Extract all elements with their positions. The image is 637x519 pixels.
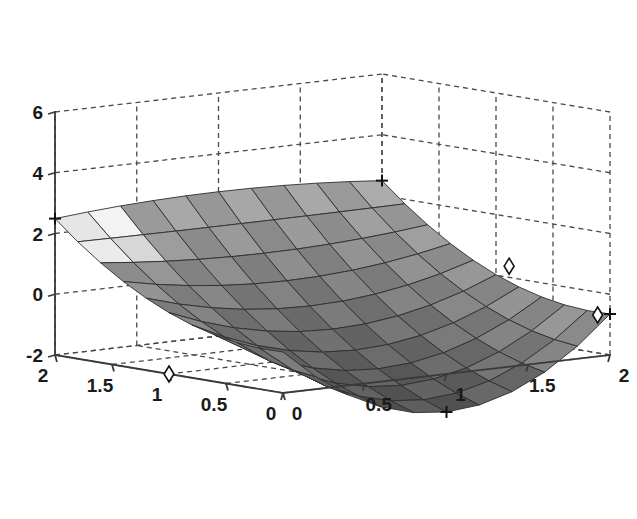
svg-text:-2: -2 <box>26 345 43 366</box>
plot-canvas: -2024600.511.5200.511.52 <box>0 0 637 519</box>
svg-text:2: 2 <box>32 224 43 245</box>
svg-text:0: 0 <box>32 284 43 305</box>
svg-text:2: 2 <box>619 365 630 386</box>
svg-text:1: 1 <box>152 384 163 405</box>
svg-text:1: 1 <box>455 384 466 405</box>
svg-text:0: 0 <box>266 403 277 424</box>
svg-text:1.5: 1.5 <box>529 375 556 396</box>
svg-text:0: 0 <box>292 403 303 424</box>
svg-text:1.5: 1.5 <box>87 375 114 396</box>
svg-text:0.5: 0.5 <box>201 394 228 415</box>
svg-text:4: 4 <box>32 163 43 184</box>
svg-text:6: 6 <box>32 102 43 123</box>
svg-text:2: 2 <box>38 365 49 386</box>
figure-3d-surface-plot: -2024600.511.5200.511.52 <box>0 0 637 519</box>
svg-text:0.5: 0.5 <box>366 394 393 415</box>
